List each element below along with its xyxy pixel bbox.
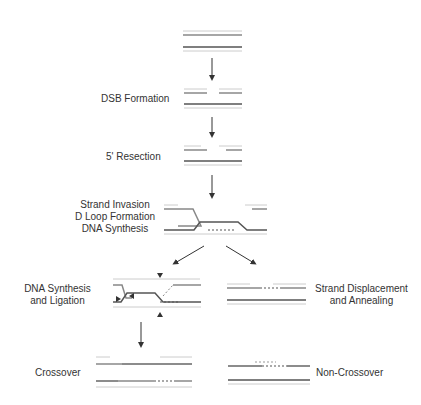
junction-marker-icon — [116, 296, 121, 302]
dsb-dna — [184, 89, 242, 108]
label-dsb-formation: DSB Formation — [101, 93, 169, 105]
label-sdsa: Strand Displacement and Annealing — [309, 283, 414, 307]
label-d-loop: D Loop Formation — [70, 211, 160, 223]
arrow-4a — [175, 246, 204, 263]
intact-dna — [183, 31, 242, 51]
label-dna-synthesis: DNA Synthesis — [70, 223, 160, 235]
dhj-dna — [113, 273, 201, 317]
noncrossover-dna — [228, 362, 310, 384]
cleavage-marker-icon — [157, 312, 163, 317]
dsb-repair-diagram — [0, 0, 421, 405]
label-invasion: Strand Invasion D Loop Formation DNA Syn… — [70, 199, 160, 235]
crossover-dna — [96, 357, 192, 387]
label-strand-invasion: Strand Invasion — [70, 199, 160, 211]
label-strand-displacement: Strand Displacement — [309, 283, 414, 295]
label-non-crossover: Non-Crossover — [316, 367, 383, 379]
label-dna-synthesis-2: DNA Synthesis — [15, 283, 100, 295]
sdsa-dna — [227, 284, 306, 304]
label-ligation: and Ligation — [15, 295, 100, 307]
resection-dna — [184, 146, 242, 165]
arrow-4b — [226, 246, 254, 263]
label-dhj: DNA Synthesis and Ligation — [15, 283, 100, 307]
invasion-dna — [164, 205, 267, 234]
label-annealing: and Annealing — [309, 295, 414, 307]
cleavage-marker-icon — [157, 273, 163, 278]
label-crossover: Crossover — [35, 367, 81, 379]
label-resection: 5' Resection — [106, 151, 161, 163]
